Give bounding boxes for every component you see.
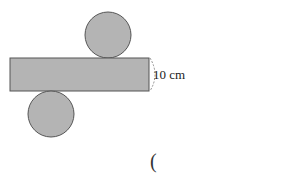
cylinder-net-diagram: 10 cm ( [0, 0, 303, 178]
answer-open-paren: ( [150, 150, 157, 173]
top-circle-base [85, 12, 131, 58]
bottom-circle-base [28, 91, 74, 137]
height-dimension-label: 10 cm [153, 67, 185, 82]
lateral-rectangle [10, 58, 149, 91]
